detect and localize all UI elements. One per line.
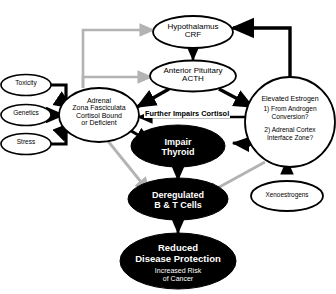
node-genetics[interactable] <box>1 105 51 126</box>
edge-adrenal-to-hypothalamus <box>83 30 154 88</box>
node-hypothalamus[interactable] <box>153 16 233 48</box>
node-reduced-disease-protection[interactable] <box>120 233 236 289</box>
diagram-graphics <box>0 0 336 294</box>
edge-pituitary-to-adrenal <box>137 89 169 107</box>
edge-adrenal-to-pituitary <box>83 77 152 88</box>
node-pituitary[interactable] <box>150 61 236 92</box>
node-adrenal[interactable] <box>59 88 139 142</box>
node-xenoestrogens[interactable] <box>251 181 323 211</box>
edge-label-further-impairs-cortisol: Further Impairs Cortisol <box>144 109 230 118</box>
node-estrogen[interactable] <box>245 77 335 167</box>
node-impair-thyroid[interactable] <box>131 125 225 167</box>
node-toxicity[interactable] <box>1 75 51 96</box>
node-deregulated-b-t-cells[interactable] <box>128 178 228 220</box>
node-stress[interactable] <box>1 134 51 155</box>
edge-estrogen-to-hypothalamus <box>233 28 290 85</box>
diagram-canvas: Toxicity Genetics Stress Hypothalamus CR… <box>0 0 336 294</box>
